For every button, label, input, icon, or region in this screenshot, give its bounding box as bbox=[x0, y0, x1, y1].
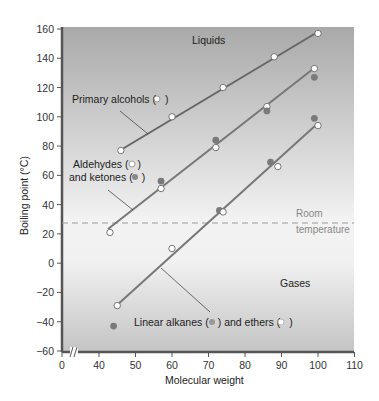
plot-area bbox=[62, 27, 354, 352]
filled-circle-icon bbox=[209, 319, 215, 325]
y-tick-label: 120 bbox=[36, 82, 54, 94]
data-point bbox=[264, 108, 271, 115]
data-point bbox=[212, 137, 219, 144]
y-tick-label: −60 bbox=[36, 345, 54, 357]
open-circle-icon bbox=[129, 161, 135, 167]
data-point bbox=[311, 74, 318, 81]
x-tick-label: 110 bbox=[346, 359, 363, 371]
gases-label: Gases bbox=[280, 277, 310, 289]
data-point bbox=[311, 115, 318, 122]
temperature-label: temperature bbox=[296, 224, 350, 235]
liquids-label: Liquids bbox=[192, 34, 225, 46]
x-tick-label: 100 bbox=[309, 359, 327, 371]
data-point bbox=[118, 147, 124, 153]
boiling-point-chart: 160140120100806040200−20−40−60 040506070… bbox=[0, 0, 379, 401]
data-point bbox=[315, 122, 321, 128]
data-point bbox=[107, 229, 113, 235]
data-point bbox=[114, 302, 120, 308]
data-point bbox=[158, 185, 164, 191]
y-tick-label: 160 bbox=[36, 23, 54, 35]
data-point bbox=[271, 54, 277, 60]
y-tick-label: 100 bbox=[36, 111, 54, 123]
x-tick-label: 70 bbox=[203, 359, 215, 371]
data-point bbox=[220, 84, 226, 90]
data-point bbox=[169, 245, 175, 251]
data-point bbox=[169, 114, 175, 120]
data-point bbox=[158, 178, 165, 185]
x-tick-label: 80 bbox=[239, 359, 251, 371]
y-tick-label: 0 bbox=[48, 257, 54, 269]
data-point bbox=[220, 209, 226, 215]
y-ticks: 160140120100806040200−20−40−60 bbox=[36, 23, 62, 357]
y-tick-label: 80 bbox=[42, 140, 54, 152]
y-tick-label: 20 bbox=[42, 228, 54, 240]
data-point bbox=[315, 30, 321, 36]
y-tick-label: 40 bbox=[42, 199, 54, 211]
open-circle-icon bbox=[278, 319, 284, 325]
room-label: Room bbox=[296, 208, 323, 219]
data-point bbox=[311, 65, 317, 71]
y-axis-title: Boiling point (°C) bbox=[18, 156, 30, 235]
x-ticks: 0405060708090100110 bbox=[59, 352, 363, 371]
y-tick-label: 140 bbox=[36, 52, 54, 64]
filled-circle-icon bbox=[132, 174, 138, 180]
data-point bbox=[213, 144, 219, 150]
data-point bbox=[110, 323, 117, 330]
x-tick-label: 60 bbox=[166, 359, 178, 371]
x-axis-title: Molecular weight bbox=[165, 374, 244, 386]
y-tick-label: −20 bbox=[36, 286, 54, 298]
x-tick-label: 40 bbox=[93, 359, 105, 371]
y-tick-label: 60 bbox=[42, 169, 54, 181]
data-point bbox=[267, 159, 274, 166]
x-tick-label: 0 bbox=[59, 359, 65, 371]
x-tick-label: 90 bbox=[276, 359, 288, 371]
open-circle-icon bbox=[154, 96, 160, 102]
y-tick-label: −40 bbox=[36, 316, 54, 328]
x-tick-label: 50 bbox=[130, 359, 142, 371]
data-point bbox=[275, 163, 281, 169]
axis-break-icon bbox=[70, 347, 78, 357]
